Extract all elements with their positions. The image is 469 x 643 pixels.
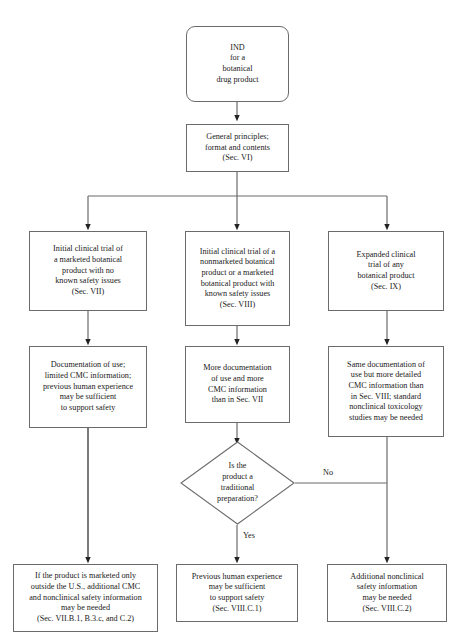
node-outcome-middle[interactable]: Previous human experience may be suffici… <box>176 564 298 622</box>
node-doc-middle[interactable]: More documentation of use and more CMC i… <box>185 346 290 423</box>
node-branch-middle[interactable]: Initial clinical trial of a nonmarketed … <box>185 231 290 326</box>
node-outcome-left[interactable]: If the product is marketed only outside … <box>13 564 158 632</box>
node-start[interactable]: IND for a botanical drug product <box>186 26 289 102</box>
node-decision-label: Is the product a traditional preparation… <box>217 461 258 504</box>
node-doc-left-label: Documentation of use; limited CMC inform… <box>33 360 143 413</box>
node-decision[interactable]: Is the product a traditional preparation… <box>180 441 295 525</box>
node-start-label: IND for a botanical drug product <box>190 43 285 86</box>
node-doc-middle-label: More documentation of use and more CMC i… <box>189 363 286 406</box>
node-branch-left[interactable]: Initial clinical trial of a marketed bot… <box>29 231 147 311</box>
node-outcome-right[interactable]: Additional nonclinical safety informatio… <box>327 564 447 622</box>
node-branch-middle-label: Initial clinical trial of a nonmarketed … <box>189 247 286 311</box>
node-branch-left-label: Initial clinical trial of a marketed bot… <box>33 244 143 297</box>
node-doc-left[interactable]: Documentation of use; limited CMC inform… <box>29 346 147 428</box>
edge-label-yes: Yes <box>243 532 255 540</box>
node-general-principles-label: General principles; format and contents … <box>190 132 285 164</box>
node-outcome-right-label: Additional nonclinical safety informatio… <box>331 572 443 615</box>
node-branch-right[interactable]: Expanded clinical trial of any botanical… <box>328 231 444 311</box>
edge-label-no: No <box>323 469 333 477</box>
node-outcome-left-label: If the product is marketed only outside … <box>17 571 154 624</box>
node-branch-right-label: Expanded clinical trial of any botanical… <box>332 250 440 293</box>
node-outcome-middle-label: Previous human experience may be suffici… <box>180 572 294 615</box>
flowchart-canvas: IND for a botanical drug product General… <box>0 0 469 643</box>
node-doc-right[interactable]: Same documentation of use but more detai… <box>328 346 444 437</box>
node-doc-right-label: Same documentation of use but more detai… <box>332 360 440 424</box>
node-general-principles[interactable]: General principles; format and contents … <box>186 124 289 172</box>
